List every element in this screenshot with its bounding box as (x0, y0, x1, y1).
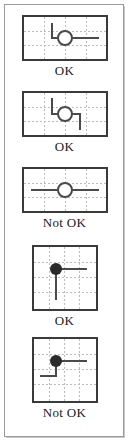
panel-verdict-label: OK (0, 63, 129, 78)
diagram-svg (24, 17, 106, 59)
filled-dot-node (50, 355, 62, 367)
panel-verdict-label: Not OK (0, 405, 129, 420)
panel-stack: OK (0, 0, 129, 442)
diagram-panel: OK (0, 91, 129, 154)
panel-verdict-label: Not OK (0, 215, 129, 230)
open-circle-node (58, 183, 72, 197)
diagram-panel: Not OK (0, 337, 129, 420)
grid-lines (34, 247, 96, 309)
diagram-canvas (22, 15, 108, 61)
grid-lines (34, 339, 96, 401)
diagram-panel: OK (0, 15, 129, 78)
panel-verdict-label: OK (0, 313, 129, 328)
diagram-svg (24, 93, 106, 135)
diagram-panel: Not OK (0, 167, 129, 230)
filled-dot-node (50, 263, 62, 275)
panel-verdict-label: OK (0, 139, 129, 154)
figure-root: OK (0, 0, 129, 442)
diagram-canvas (32, 337, 98, 403)
open-circle-node (58, 107, 72, 121)
diagram-svg (34, 339, 96, 401)
diagram-canvas (22, 91, 108, 137)
diagram-svg (24, 169, 106, 211)
diagram-canvas (32, 245, 98, 311)
diagram-svg (34, 247, 96, 309)
diagram-canvas (22, 167, 108, 213)
open-circle-node (58, 31, 72, 45)
wire-path (56, 269, 86, 299)
diagram-panel: OK (0, 245, 129, 328)
